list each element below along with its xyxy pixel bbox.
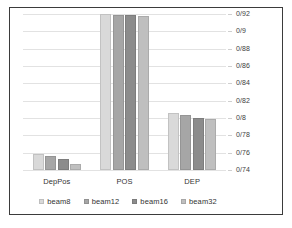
y-axis-tick: [228, 66, 232, 67]
bar-pos-beam32: [138, 16, 149, 170]
legend-swatch-icon: [84, 199, 89, 204]
legend-label: beam16: [140, 197, 168, 206]
bar-pos-beam12: [113, 15, 124, 170]
chart-frame: 0/920/90/880/860/840/820/80/780/760/74 D…: [9, 7, 283, 215]
category-axis-labels: DepPosPOSDEP: [23, 175, 226, 189]
gridline: [23, 170, 226, 171]
bar-deppos-beam12: [45, 156, 56, 170]
chart-screenshot: 0/920/90/880/860/840/820/80/780/760/74 D…: [0, 0, 292, 228]
y-axis-tick: [228, 83, 232, 84]
chart-legend: beam8beam12beam16beam32: [23, 194, 233, 208]
y-axis-tick-label: 0/74: [236, 166, 250, 174]
legend-label: beam32: [189, 197, 217, 206]
y-axis-tick-label: 0/88: [236, 45, 250, 53]
bar-pos-beam16: [125, 15, 136, 170]
y-axis-tick-label: 0/8: [236, 114, 246, 122]
y-axis-tick-label: 0/82: [236, 97, 250, 105]
legend-item-beam32[interactable]: beam32: [181, 197, 217, 206]
y-axis-tick-label: 0/76: [236, 149, 250, 157]
y-axis-tick-label: 0/9: [236, 27, 246, 35]
plot-wrapper: 0/920/90/880/860/840/820/80/780/760/74 D…: [10, 8, 282, 214]
bar-dep-beam32: [205, 119, 216, 170]
legend-label: beam8: [47, 197, 70, 206]
bar-deppos-beam8: [33, 154, 44, 170]
y-axis-tick: [228, 49, 232, 50]
y-axis-tick: [228, 153, 232, 154]
bar-deppos-beam32: [70, 164, 81, 170]
bar-deppos-beam16: [58, 159, 69, 170]
y-axis-tick: [228, 31, 232, 32]
legend-swatch-icon: [181, 199, 186, 204]
legend-swatch-icon: [132, 199, 137, 204]
legend-swatch-icon: [39, 199, 44, 204]
y-axis-tick-label: 0/84: [236, 79, 250, 87]
y-axis-labels: 0/920/90/880/860/840/820/80/780/760/74: [228, 8, 278, 177]
bar-group-pos: [100, 14, 149, 170]
y-axis-tick-label: 0/78: [236, 131, 250, 139]
y-axis-tick-label: 0/86: [236, 62, 250, 70]
y-axis-tick: [228, 14, 232, 15]
bar-pos-beam8: [100, 14, 111, 170]
bar-dep-beam16: [193, 118, 204, 170]
bar-dep-beam12: [180, 115, 191, 170]
y-axis-tick: [228, 101, 232, 102]
bar-group-deppos: [33, 14, 82, 170]
title-remnant: [0, 0, 292, 7]
category-label-dep: DEP: [152, 177, 232, 186]
y-axis-tick: [228, 118, 232, 119]
bar-group-dep: [168, 14, 217, 170]
bar-dep-beam8: [168, 113, 179, 170]
y-axis-tick: [228, 170, 232, 171]
plot-area: [23, 14, 226, 171]
y-axis-tick-label: 0/92: [236, 10, 250, 18]
legend-item-beam8[interactable]: beam8: [39, 197, 70, 206]
legend-item-beam16[interactable]: beam16: [132, 197, 168, 206]
y-axis-tick: [228, 135, 232, 136]
legend-item-beam12[interactable]: beam12: [84, 197, 120, 206]
legend-label: beam12: [92, 197, 120, 206]
